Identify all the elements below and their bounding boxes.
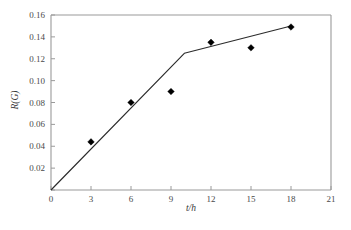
chart-figure: 0.020.040.060.080.100.120.140.16 0369121… [0,0,351,230]
y-tick-label: 0.06 [29,119,45,129]
x-axis-title: t/h [186,203,196,213]
x-tick-label: 21 [327,194,336,204]
x-tick-label: 9 [169,194,174,204]
y-tick-label: 0.12 [29,54,45,64]
y-tick-label: 0.02 [29,163,45,173]
y-axis-title: R(G) [10,91,21,111]
x-tick-label: 18 [287,194,297,204]
scatter-plot-canvas: 0.020.040.060.080.100.120.140.16 0369121… [0,0,351,230]
x-tick-label: 6 [129,194,134,204]
y-tick-label: 0.08 [29,98,45,108]
x-tick-label: 0 [49,194,54,204]
x-tick-label: 12 [207,194,216,204]
x-tick-label: 15 [247,194,257,204]
y-tick-label: 0.16 [29,10,45,20]
y-tick-label: 0.14 [29,32,45,42]
y-tick-label: 0.04 [29,141,45,151]
x-tick-label: 3 [89,194,94,204]
y-tick-label: 0.10 [29,76,45,86]
